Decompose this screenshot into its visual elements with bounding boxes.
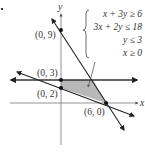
- inequality-2: 3x + 2y ≤ 18: [92, 22, 142, 32]
- point-0-2: [59, 86, 63, 90]
- point-label-0-3: (0, 3): [37, 68, 58, 79]
- stray-mark: [1, 8, 3, 10]
- line-x-plus-3y-equals-6: [17, 72, 134, 116]
- inequality-1: x + 3y ≥ 6: [102, 9, 142, 19]
- point-0-3: [59, 78, 63, 82]
- point-label-6-0: (6, 0): [84, 107, 105, 118]
- point-6-0: [104, 101, 108, 105]
- x-axis-label: x: [139, 98, 145, 108]
- point-label-0-2: (0, 2): [37, 89, 58, 100]
- y-axis-label: y: [57, 2, 63, 12]
- inequality-4: x ≥ 0: [122, 48, 142, 58]
- point-0-9: [59, 28, 63, 32]
- point-label-0-9: (0, 9): [35, 30, 56, 41]
- inequality-graph: x y (0, 9) (0, 3) (0, 2) (6, 0) x + 3y ≥…: [0, 0, 145, 152]
- inequality-3: y ≤ 3: [122, 35, 142, 45]
- system-brace: [83, 10, 89, 58]
